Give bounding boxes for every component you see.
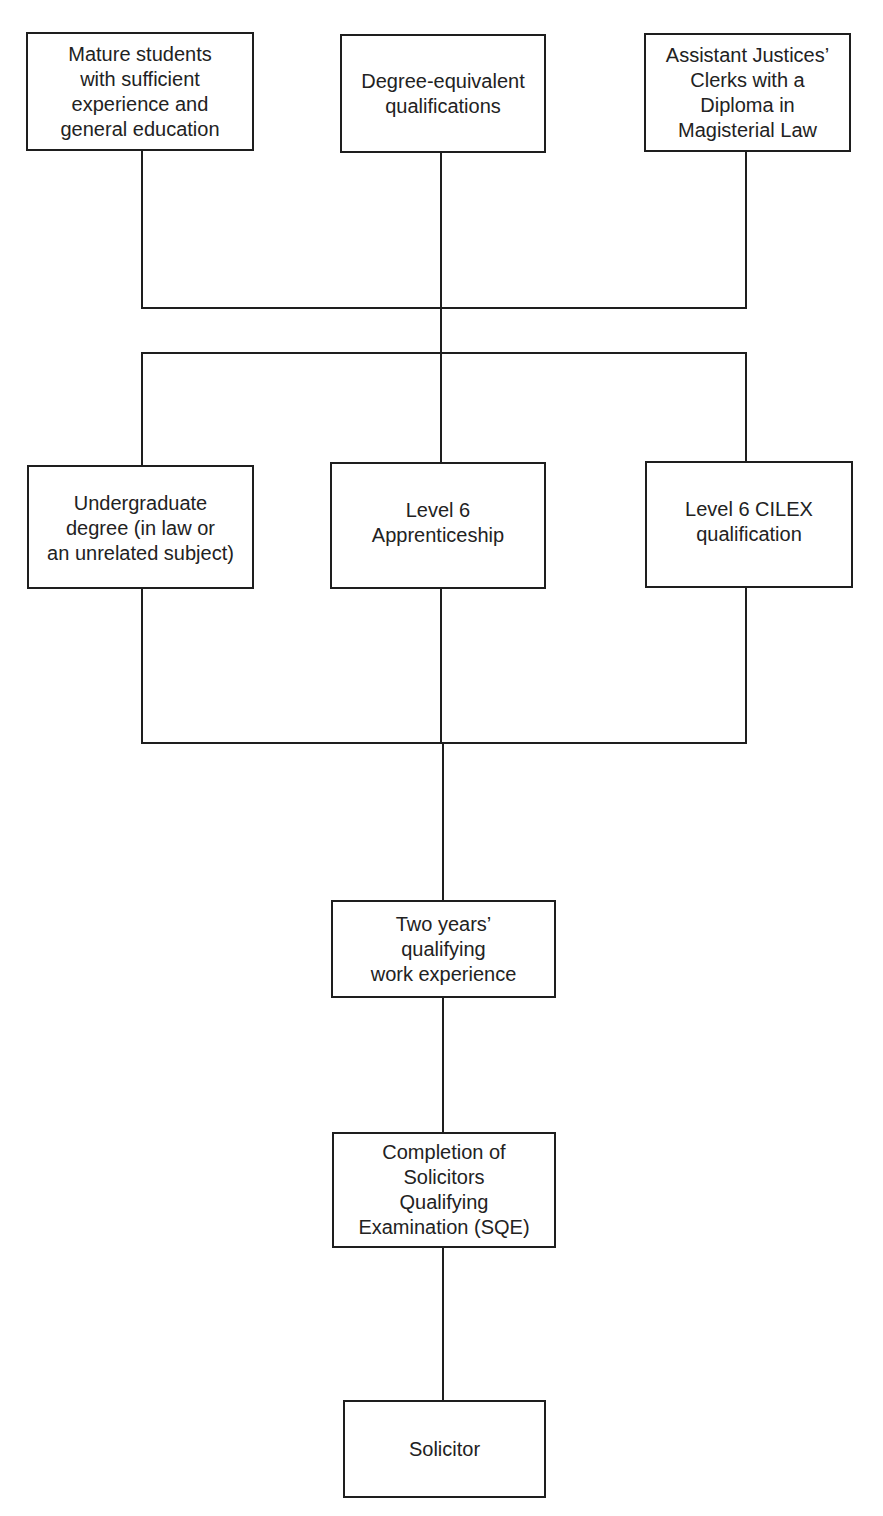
box-label: Level 6 Apprenticeship bbox=[372, 498, 504, 548]
box-solicitor: Solicitor bbox=[343, 1400, 546, 1498]
box-assistant-justices-clerks: Assistant Justices’ Clerks with a Diplom… bbox=[644, 33, 851, 152]
connector-line bbox=[745, 352, 747, 462]
box-mature-students: Mature students with sufficient experien… bbox=[26, 32, 254, 151]
connector-line bbox=[141, 352, 143, 466]
box-label: Level 6 CILEX qualification bbox=[685, 497, 813, 547]
box-label: Assistant Justices’ Clerks with a Diplom… bbox=[666, 43, 829, 143]
box-label: Two years’ qualifying work experience bbox=[371, 912, 517, 987]
flowchart-canvas: Mature students with sufficient experien… bbox=[0, 0, 883, 1516]
connector-line bbox=[141, 151, 143, 309]
connector-line bbox=[440, 352, 442, 463]
connector-line bbox=[442, 1248, 444, 1401]
box-label: Mature students with sufficient experien… bbox=[60, 42, 219, 142]
connector-line bbox=[442, 742, 444, 901]
connector-line bbox=[440, 153, 442, 309]
connector-line bbox=[440, 307, 442, 355]
connector-line bbox=[745, 588, 747, 744]
connector-line bbox=[745, 152, 747, 309]
merge-bar-entry-routes bbox=[141, 307, 747, 309]
box-level6-apprenticeship: Level 6 Apprenticeship bbox=[330, 462, 546, 589]
merge-bar-qualification-routes bbox=[141, 742, 747, 744]
box-label: Solicitor bbox=[409, 1437, 480, 1462]
box-qualifying-work-experience: Two years’ qualifying work experience bbox=[331, 900, 556, 998]
box-degree-equivalent: Degree-equivalent qualifications bbox=[340, 34, 546, 153]
box-label: Degree-equivalent qualifications bbox=[361, 69, 524, 119]
box-sqe: Completion of Solicitors Qualifying Exam… bbox=[332, 1132, 556, 1248]
box-label: Completion of Solicitors Qualifying Exam… bbox=[358, 1140, 529, 1240]
box-undergraduate-degree: Undergraduate degree (in law or an unrel… bbox=[27, 465, 254, 589]
connector-line bbox=[440, 589, 442, 744]
box-level6-cilex: Level 6 CILEX qualification bbox=[645, 461, 853, 588]
box-label: Undergraduate degree (in law or an unrel… bbox=[47, 491, 234, 566]
connector-line bbox=[141, 589, 143, 744]
connector-line bbox=[442, 998, 444, 1133]
split-bar-qualification-routes bbox=[141, 352, 747, 354]
